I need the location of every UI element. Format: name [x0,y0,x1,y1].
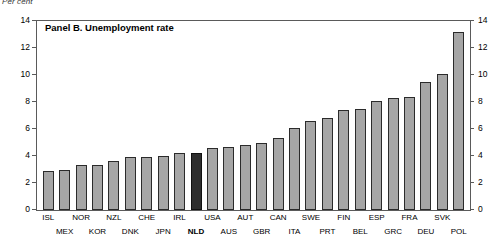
y-tick-label-left-14: 14 [4,16,34,24]
x-label-slot: SVK [434,212,450,246]
bar-mex [59,170,70,211]
y-tick-mark-right-2 [470,182,474,183]
y-tick-label-left-0: 0 [4,205,34,213]
bar-slot [40,21,56,210]
bar-slot [319,21,335,210]
x-label-slot: ITA [286,212,302,246]
bar-slot [171,21,187,210]
bar-swe [305,121,316,210]
x-label-slot: POL [451,212,467,246]
y-tick-mark-right-12 [470,47,474,48]
x-label-slot: JPN [155,212,171,246]
bar-gbr [256,143,267,211]
y-tick-mark-left-6 [32,128,36,129]
bar-aus [223,147,234,210]
bar-ita [289,128,300,210]
bar-slot [188,21,204,210]
x-tick-label-prt: PRT [319,227,335,236]
x-tick-label-grc: GRC [384,227,402,236]
y-tick-label-right-6: 6 [474,124,498,132]
x-tick-label-jpn: JPN [156,227,171,236]
x-tick-label-bel: BEL [353,227,368,236]
y-tick-label-left-2: 2 [4,178,34,186]
x-tick-label-ita: ITA [289,227,301,236]
x-label-slot: ESP [368,212,384,246]
bar-slot [385,21,401,210]
x-label-slot: NLD [188,212,204,246]
bar-deu [420,82,431,210]
bar-series [37,21,470,210]
x-tick-label-esp: ESP [369,213,385,222]
x-tick-label-isl: ISL [42,213,54,222]
bar-slot [221,21,237,210]
bar-kor [92,165,103,210]
bar-esp [371,101,382,210]
bar-can [273,138,284,210]
x-label-slot: DNK [122,212,138,246]
x-label-slot: FRA [401,212,417,246]
x-tick-label-aut: AUT [237,213,253,222]
bar-jpn [158,156,169,210]
bar-bel [355,109,366,210]
x-label-slot: PRT [319,212,335,246]
bar-slot [56,21,72,210]
y-tick-mark-right-14 [470,20,474,21]
x-tick-label-deu: DEU [417,227,434,236]
x-axis-labels: ISLMEXNORKORNZLDNKCHEJPNIRLNLDUSAAUSAUTG… [37,212,470,246]
y-tick-mark-left-0 [32,209,36,210]
y-tick-mark-left-8 [32,101,36,102]
x-tick-label-dnk: DNK [122,227,139,236]
bar-slot [155,21,171,210]
y-tick-mark-right-10 [470,74,474,75]
bar-irl [174,153,185,210]
x-tick-label-gbr: GBR [253,227,270,236]
bar-nld [191,153,202,210]
y-tick-mark-right-4 [470,155,474,156]
x-tick-label-nzl: NZL [106,213,121,222]
x-label-slot: SWE [303,212,319,246]
y-tick-label-left-4: 4 [4,151,34,159]
x-tick-label-kor: KOR [89,227,106,236]
x-tick-label-can: CAN [270,213,287,222]
y-axis-right: 14121086420 [474,20,498,211]
bar-slot [368,21,384,210]
bar-slot [73,21,89,210]
x-label-slot: CHE [139,212,155,246]
y-tick-label-right-4: 4 [474,151,498,159]
x-tick-label-pol: POL [451,227,467,236]
x-tick-label-aus: AUS [221,227,237,236]
x-label-slot: NZL [106,212,122,246]
bar-slot [434,21,450,210]
x-tick-label-irl: IRL [173,213,185,222]
x-label-slot: GRC [385,212,401,246]
bar-svk [437,74,448,210]
x-label-slot: DEU [418,212,434,246]
bar-nzl [108,161,119,210]
x-label-slot: AUS [221,212,237,246]
y-tick-mark-left-12 [32,47,36,48]
x-tick-label-mex: MEX [56,227,73,236]
bar-pol [453,32,464,210]
x-tick-label-fin: FIN [337,213,350,222]
bar-slot [286,21,302,210]
x-label-slot: CAN [270,212,286,246]
x-label-slot: USA [204,212,220,246]
y-tick-mark-left-2 [32,182,36,183]
y-tick-label-left-12: 12 [4,43,34,51]
y-tick-mark-left-14 [32,20,36,21]
y-tick-mark-left-10 [32,74,36,75]
y-tick-label-right-2: 2 [474,178,498,186]
x-label-slot: FIN [336,212,352,246]
bar-slot [303,21,319,210]
y-tick-mark-right-6 [470,128,474,129]
y-tick-label-left-8: 8 [4,97,34,105]
bar-fra [404,97,415,210]
y-tick-label-right-8: 8 [474,97,498,105]
bar-slot [401,21,417,210]
x-tick-label-swe: SWE [302,213,320,222]
bar-fin [338,110,349,210]
x-label-slot: MEX [56,212,72,246]
bar-slot [253,21,269,210]
y-tick-mark-right-0 [470,209,474,210]
bar-grc [388,98,399,210]
